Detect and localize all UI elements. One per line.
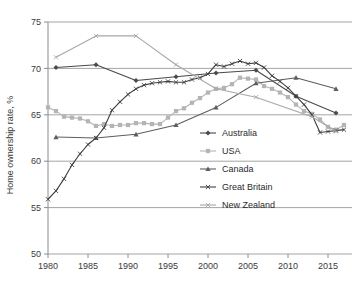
y-tick-75: 75 <box>31 17 41 27</box>
series-canada <box>53 75 338 140</box>
series-great-britain <box>46 59 346 201</box>
legend-label: New Zealand <box>222 200 275 210</box>
x-tick-1990: 1990 <box>118 261 138 271</box>
y-tick-labels: 505560657075 <box>31 17 41 259</box>
legend-label: USA <box>222 146 241 156</box>
axis-lines <box>44 22 328 258</box>
x-tick-2015: 2015 <box>318 261 338 271</box>
x-tick-1980: 1980 <box>38 261 58 271</box>
legend-label: Great Britain <box>222 182 273 192</box>
series-new-zealand <box>54 34 338 134</box>
y-tick-55: 55 <box>31 203 41 213</box>
home-ownership-line-chart: 505560657075 198019851990199520002005201… <box>0 0 356 289</box>
x-tick-labels: 19801985199019952000200520102015 <box>38 261 338 271</box>
x-tick-2005: 2005 <box>238 261 258 271</box>
legend-item-great-britain[interactable]: Great Britain <box>200 182 273 192</box>
series-usa <box>46 76 346 132</box>
y-tick-70: 70 <box>31 64 41 74</box>
legend-label: Canada <box>222 164 254 174</box>
chart-canvas: 505560657075 198019851990199520002005201… <box>0 0 356 289</box>
x-tick-1995: 1995 <box>158 261 178 271</box>
chart-legend: AustraliaUSACanadaGreat BritainNew Zeala… <box>200 128 275 210</box>
y-tick-50: 50 <box>31 249 41 259</box>
x-tick-2010: 2010 <box>278 261 298 271</box>
data-series <box>46 34 346 202</box>
y-axis-title: Home ownership rate, % <box>5 96 15 195</box>
series-australia <box>54 62 339 115</box>
legend-item-canada[interactable]: Canada <box>200 164 254 174</box>
legend-label: Australia <box>222 128 257 138</box>
legend-item-australia[interactable]: Australia <box>200 128 257 138</box>
x-tick-2000: 2000 <box>198 261 218 271</box>
x-tick-1985: 1985 <box>78 261 98 271</box>
y-tick-60: 60 <box>31 156 41 166</box>
y-tick-65: 65 <box>31 110 41 120</box>
legend-item-new-zealand[interactable]: New Zealand <box>200 200 275 210</box>
legend-item-usa[interactable]: USA <box>200 146 241 156</box>
